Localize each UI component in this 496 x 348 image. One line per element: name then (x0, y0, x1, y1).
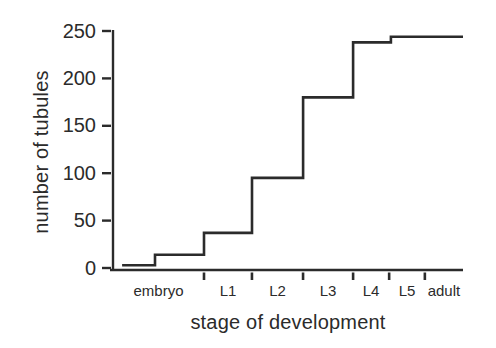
tubule-development-figure: number of tubules 050100150200250embryoL… (0, 0, 496, 348)
x-stage-label: adult (428, 282, 461, 299)
y-tick-label: 150 (63, 114, 96, 136)
x-stage-label: embryo (133, 282, 183, 299)
x-stage-label: L4 (363, 282, 380, 299)
step-chart-plot: 050100150200250embryoL1L2L3L4L5adult (0, 0, 496, 348)
chart-canvas: 050100150200250embryoL1L2L3L4L5adult (0, 0, 496, 348)
x-axis-title: stage of development (113, 311, 463, 334)
y-tick-label: 50 (74, 209, 96, 231)
x-stage-label: L5 (399, 282, 416, 299)
y-tick-label: 250 (63, 20, 96, 42)
y-tick-label: 100 (63, 162, 96, 184)
x-stage-label: L3 (320, 282, 337, 299)
y-tick-label: 200 (63, 67, 96, 89)
x-stage-label: L1 (220, 282, 237, 299)
x-stage-label: L2 (269, 282, 286, 299)
y-tick-label: 0 (85, 257, 96, 279)
step-line (122, 37, 463, 266)
